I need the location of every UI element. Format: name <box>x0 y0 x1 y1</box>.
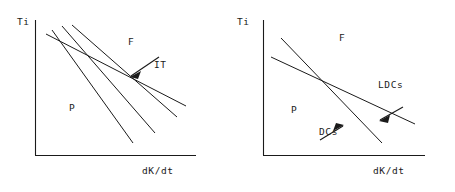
left-y-axis-label: Ti <box>17 17 30 27</box>
right-chart-canvas <box>228 0 455 192</box>
chart-panel-right: Ti dK/dt F P LDCs DCs <box>228 0 455 192</box>
left-curve-3 <box>72 25 177 117</box>
right-region-label-f: F <box>339 33 345 43</box>
left-region-label-p: P <box>69 103 75 113</box>
right-x-axis-label: dK/dt <box>373 166 405 176</box>
left-annotation-label-it: IT <box>154 60 167 70</box>
right-annotation-label-ldcs: LDCs <box>378 80 403 90</box>
two-panel-figure: Ti dK/dt F P IT Ti dK/dt F P LDCs DC <box>0 0 455 192</box>
left-curve-1 <box>52 30 133 143</box>
left-curve-4 <box>46 34 186 106</box>
left-x-axis-label: dK/dt <box>142 166 174 176</box>
right-ldcs-arrow-head <box>379 115 390 123</box>
right-region-label-p: P <box>291 105 297 115</box>
left-region-label-f: F <box>128 37 134 47</box>
left-chart-canvas <box>0 0 228 192</box>
left-curve-2 <box>62 26 155 133</box>
right-annotation-label-dcs: DCs <box>319 127 338 137</box>
right-y-axis-label: Ti <box>237 17 250 27</box>
chart-panel-left: Ti dK/dt F P IT <box>0 0 228 192</box>
